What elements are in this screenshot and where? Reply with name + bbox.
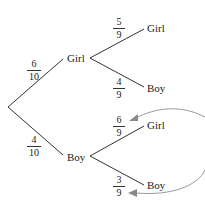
prob-denominator: 9 (112, 128, 126, 138)
node-girl-boy: Boy (147, 83, 165, 94)
node-girl-girl: Girl (147, 23, 165, 34)
prob-girl: 6 10 (26, 59, 42, 82)
prob-numerator: 4 (112, 77, 126, 87)
prob-boy-boy: 3 9 (112, 175, 126, 198)
prob-numerator: 6 (112, 115, 126, 125)
prob-girl-boy: 4 9 (112, 77, 126, 100)
prob-denominator: 9 (112, 30, 126, 40)
node-boy-girl: Girl (147, 120, 165, 131)
prob-numerator: 6 (26, 59, 42, 69)
arrowhead-6-9-icon (129, 114, 138, 121)
prob-denominator: 10 (26, 148, 42, 158)
arrowhead-3-9-icon (128, 189, 137, 197)
node-girl-level1: Girl (67, 53, 85, 64)
prob-boy-girl: 6 9 (112, 115, 126, 138)
prob-denominator: 9 (112, 90, 126, 100)
prob-girl-girl: 5 9 (112, 17, 126, 40)
prob-denominator: 10 (26, 72, 42, 82)
tree-branches (0, 0, 205, 215)
prob-numerator: 5 (112, 17, 126, 27)
prob-numerator: 4 (26, 135, 42, 145)
prob-denominator: 9 (112, 188, 126, 198)
arrow-to-6-9-icon (136, 109, 205, 118)
prob-boy: 4 10 (26, 135, 42, 158)
node-boy-level1: Boy (67, 152, 85, 163)
node-boy-boy: Boy (147, 180, 165, 191)
prob-numerator: 3 (112, 175, 126, 185)
